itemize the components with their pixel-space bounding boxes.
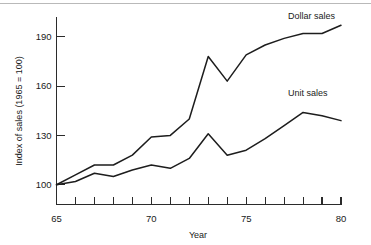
x-axis: 65707580 Year [51,197,346,241]
chart-figure: 100130160190 Index of sales (1965 = 100)… [0,0,371,245]
line-chart: 100130160190 Index of sales (1965 = 100)… [0,0,371,245]
x-tick-label: 75 [241,213,252,224]
y-axis-title: Index of sales (1965 = 100) [14,56,24,165]
series-annotation: Dollar sales [288,11,336,21]
series-label-group: Dollar salesUnit sales [288,11,336,98]
series-annotation: Unit sales [288,88,328,98]
y-tick-label-group: 100130160190 [36,31,52,190]
y-tick-label: 100 [36,179,52,190]
y-tick-label: 130 [36,130,52,141]
series-line [57,25,342,185]
series-line [57,112,342,184]
x-axis-title: Year [189,230,207,240]
x-tick-label-group: 65707580 [51,213,346,224]
y-tick-group [57,37,65,185]
x-tick-label: 70 [146,213,157,224]
x-tick-label: 65 [51,213,62,224]
x-tick-group [75,197,341,205]
x-tick-label: 80 [336,213,347,224]
y-tick-label: 190 [36,31,52,42]
y-tick-label: 160 [36,80,52,91]
series-group [57,25,342,185]
y-axis: 100130160190 Index of sales (1965 = 100) [14,17,65,205]
